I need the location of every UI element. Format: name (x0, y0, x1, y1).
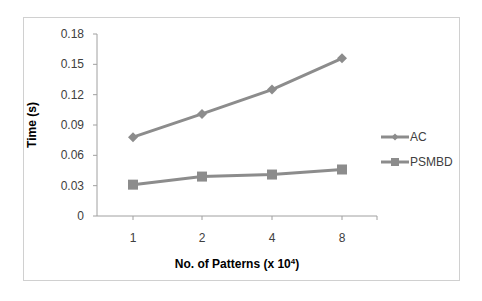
y-tick-label: 0.06 (61, 148, 85, 162)
diamond-marker (337, 53, 347, 63)
square-marker (128, 180, 138, 190)
series-psmbd (128, 164, 347, 189)
legend-item-psmbd: PSMBD (381, 155, 453, 169)
legend-label: AC (410, 130, 427, 144)
y-tick-label: 0.09 (61, 118, 85, 132)
y-tick-label: 0.12 (61, 88, 85, 102)
x-tick-label: 1 (130, 231, 137, 245)
x-axis-title: No. of Patterns (x 104) (175, 257, 299, 272)
diamond-marker (128, 132, 138, 142)
x-tick-label: 8 (339, 231, 346, 245)
x-tick-label: 4 (269, 231, 276, 245)
y-tick-label: 0 (77, 209, 84, 223)
square-marker (197, 172, 207, 182)
diamond-marker (267, 85, 277, 95)
line-chart: 00.030.060.090.120.150.18 1248 Time (s) … (0, 0, 482, 301)
legend: ACPSMBD (381, 130, 453, 169)
x-axis-ticks: 1248 (130, 216, 377, 245)
y-tick-label: 0.15 (61, 57, 85, 71)
y-tick-label: 0.18 (61, 27, 85, 41)
legend-item-ac: AC (381, 130, 427, 144)
square-marker (267, 170, 277, 180)
series-group (128, 53, 347, 189)
x-tick-label: 2 (199, 231, 206, 245)
diamond-marker (197, 109, 207, 119)
y-axis-title: Time (s) (25, 102, 39, 148)
y-axis-ticks: 00.030.060.090.120.150.18 (61, 27, 97, 223)
y-tick-label: 0.03 (61, 179, 85, 193)
square-marker (337, 164, 347, 174)
legend-label: PSMBD (410, 155, 453, 169)
series-ac (128, 53, 347, 142)
